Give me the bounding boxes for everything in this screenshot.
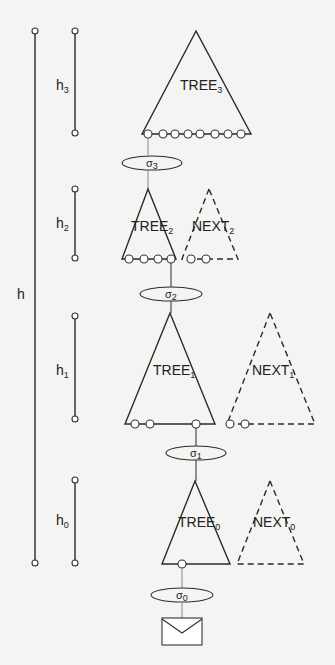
height-label-h1: h1 xyxy=(56,362,69,380)
hypertree-diagram: h h3 h2 h1 h0 TREE3 xyxy=(0,0,335,665)
tree-0: TREE0 xyxy=(162,481,230,568)
height-label-total: h xyxy=(17,286,25,302)
height-bar-total: h xyxy=(17,28,38,566)
svg-text:σ3: σ3 xyxy=(146,157,158,171)
height-bar-h3: h3 xyxy=(56,28,78,136)
height-label-h0: h0 xyxy=(56,512,69,530)
height-bar-h2: h2 xyxy=(56,186,78,261)
signature-3: σ3 xyxy=(122,156,182,171)
envelope-icon xyxy=(162,618,202,645)
svg-text:σ1: σ1 xyxy=(190,447,202,461)
tree-0-label: TREE0 xyxy=(178,514,220,532)
height-label-h3: h3 xyxy=(56,77,69,95)
signature-1: σ1 xyxy=(166,446,226,461)
next-tree-1-label: NEXT1 xyxy=(252,362,294,380)
height-label-h2: h2 xyxy=(56,215,69,233)
tree-1: TREE1 xyxy=(125,313,215,428)
signature-0: σ0 xyxy=(151,588,213,603)
height-bar-h0: h0 xyxy=(56,477,78,566)
tree-2-label: TREE2 xyxy=(131,218,173,236)
next-tree-0: NEXT0 xyxy=(237,481,304,564)
tree-1-label: TREE1 xyxy=(153,362,195,380)
svg-text:σ0: σ0 xyxy=(176,589,188,603)
height-bar-h1: h1 xyxy=(56,313,78,422)
tree-2: TREE2 xyxy=(122,189,176,263)
next-tree-2-label: NEXT2 xyxy=(192,218,234,236)
signature-2: σ2 xyxy=(140,287,202,302)
tree-3-label: TREE3 xyxy=(180,77,222,95)
next-tree-2: NEXT2 xyxy=(182,189,238,263)
tree-3: TREE3 xyxy=(142,31,251,138)
svg-text:σ2: σ2 xyxy=(165,288,177,302)
next-tree-0-label: NEXT0 xyxy=(253,514,295,532)
next-tree-1: NEXT1 xyxy=(226,313,315,428)
